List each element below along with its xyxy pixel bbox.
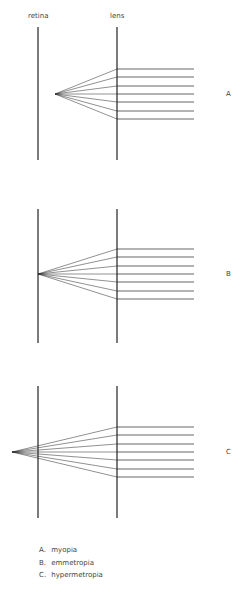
- legend: A. myopia B. emmetropia C. hypermetropia: [39, 544, 103, 582]
- converging-ray: [12, 435, 117, 452]
- legend-item-hypermetropia: C. hypermetropia: [39, 569, 103, 582]
- legend-item-myopia: A. myopia: [39, 544, 103, 557]
- converging-ray: [12, 452, 117, 469]
- legend-item-emmetropia: B. emmetropia: [39, 557, 103, 570]
- converging-ray: [38, 274, 117, 291]
- converging-ray: [55, 94, 117, 111]
- optics-diagram: [0, 0, 246, 603]
- converging-ray: [55, 77, 117, 94]
- panel-label-a: A: [226, 90, 231, 98]
- panel-label-c: C: [226, 448, 231, 456]
- panel-label-b: B: [226, 270, 231, 278]
- converging-ray: [38, 257, 117, 274]
